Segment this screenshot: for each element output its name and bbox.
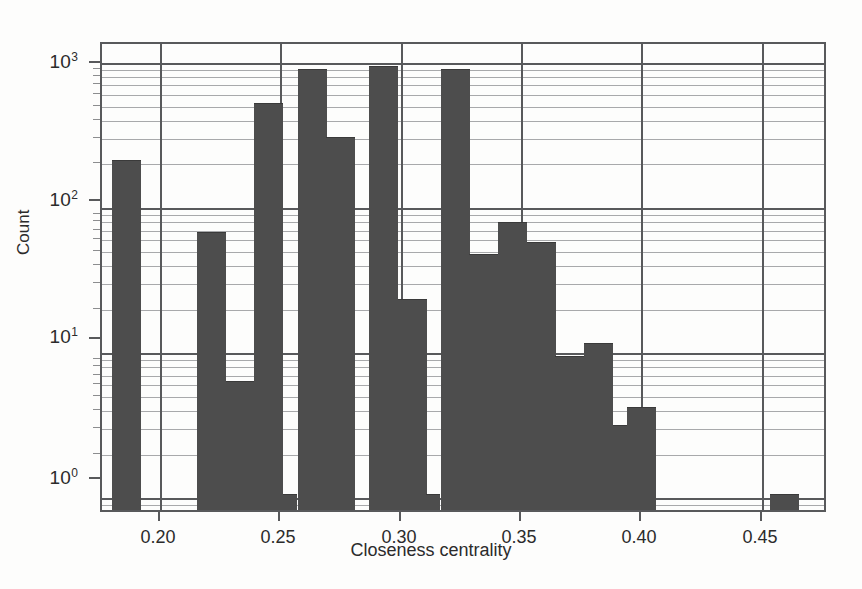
y-minor-tick	[93, 308, 100, 309]
plot-area	[100, 42, 826, 512]
y-minor-tick	[93, 75, 100, 76]
histogram-bar	[469, 254, 498, 510]
major-gridline-x	[160, 44, 162, 510]
y-minor-tick	[93, 409, 100, 410]
y-minor-tick	[93, 365, 100, 366]
histogram-bar	[441, 69, 470, 510]
y-tick-label-10: 101	[0, 326, 78, 348]
y-minor-tick	[93, 68, 100, 69]
histogram-bar	[498, 222, 527, 510]
y-minor-tick	[93, 220, 100, 221]
histogram-bar	[254, 103, 283, 510]
y-minor-tick	[93, 250, 100, 251]
histogram-bar	[584, 343, 613, 510]
y-minor-tick	[93, 383, 100, 384]
y-tick-label-1000: 103	[0, 51, 78, 73]
major-gridline-x	[762, 44, 764, 510]
histogram-bar	[369, 66, 398, 510]
histogram-bar	[627, 407, 656, 510]
y-minor-tick	[93, 395, 100, 396]
y-minor-tick	[93, 119, 100, 120]
x-tick	[158, 512, 160, 521]
y-tick-10	[89, 337, 100, 339]
x-tick	[639, 512, 641, 521]
histogram-bar	[398, 299, 427, 510]
histogram-bar	[426, 494, 440, 510]
y-minor-tick	[93, 229, 100, 230]
histogram-bar	[112, 160, 141, 510]
y-minor-tick	[93, 358, 100, 359]
y-minor-tick	[93, 93, 100, 94]
y-minor-tick	[93, 282, 100, 283]
x-tick	[278, 512, 280, 521]
x-tick	[399, 512, 401, 521]
figure-root: Count 103 102 101 100 0.200.250.300.350.…	[0, 0, 862, 589]
y-minor-tick	[93, 105, 100, 106]
histogram-bar	[226, 381, 255, 510]
x-tick	[519, 512, 521, 521]
y-axis-title: Count	[14, 210, 34, 255]
histogram-bar	[555, 356, 584, 510]
y-minor-tick	[93, 83, 100, 84]
y-tick-1000	[89, 61, 100, 63]
histogram-bar	[197, 232, 226, 510]
y-minor-tick	[93, 453, 100, 454]
histogram-bar	[770, 494, 799, 510]
y-tick-label-100: 102	[0, 189, 78, 211]
x-axis-title: Closeness centrality	[0, 540, 862, 561]
y-tick-1	[89, 477, 100, 479]
histogram-bar	[298, 69, 327, 510]
y-minor-tick	[93, 374, 100, 375]
y-tick-100	[89, 199, 100, 201]
y-minor-tick	[93, 238, 100, 239]
y-minor-tick	[93, 137, 100, 138]
histogram-bar	[527, 242, 556, 510]
y-minor-tick	[93, 213, 100, 214]
y-tick-label-1: 100	[0, 467, 78, 489]
histogram-bar	[613, 425, 627, 510]
x-tick	[760, 512, 762, 521]
y-minor-tick	[93, 162, 100, 163]
y-minor-tick	[93, 264, 100, 265]
y-minor-tick	[93, 427, 100, 428]
histogram-bar	[326, 137, 355, 510]
histogram-bar	[283, 494, 297, 510]
major-gridline-y	[102, 63, 824, 65]
